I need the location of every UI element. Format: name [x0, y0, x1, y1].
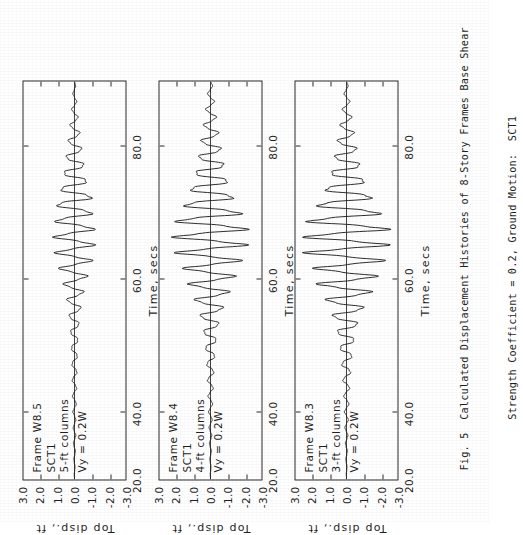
x-tick-top-60 — [23, 278, 28, 279]
caption-line-1: Fig. 5 Calculated Displacement Histories… — [456, 30, 472, 470]
y-axis-label-1: 1.0 — [51, 486, 63, 520]
x-axis-label-20: 20.0 — [402, 468, 414, 493]
x-axis-label-80: 80.0 — [402, 134, 414, 159]
y-axis-label-2: 2.0 — [305, 486, 317, 520]
ground-motion-label-w8-5: SCT1 — [44, 398, 58, 472]
ground-motion-label-w8-3: SCT1 — [316, 398, 330, 472]
ground-motion-label-w8-4: SCT1 — [180, 398, 194, 472]
x-axis-label-20: 20.0 — [130, 468, 142, 493]
x-axis-label-40: 40.0 — [402, 401, 414, 426]
y-axis-label-3: 3.0 — [152, 486, 164, 520]
annotation-block-w8-3: Frame W8.3 SCT1 3-ft columns Vy = 0.2W — [302, 398, 360, 472]
x-axis-label-80: 80.0 — [266, 134, 278, 159]
x-tick-40 — [392, 411, 397, 412]
y-tick-right-neg2 — [382, 81, 383, 86]
y-tick-1 — [330, 474, 331, 479]
y-tick-neg1 — [364, 474, 365, 479]
y-axis-title: Top disp., ft — [287, 522, 407, 535]
x-axis-label-60: 60.0 — [130, 268, 142, 293]
y-tick-2 — [40, 474, 41, 479]
y-tick-right-1 — [58, 81, 59, 86]
x-axis-title: Time, secs — [146, 244, 159, 316]
y-axis-title: Top disp., ft — [15, 522, 135, 535]
y-axis-label-1: 1.0 — [323, 486, 335, 520]
x-axis-label-40: 40.0 — [266, 401, 278, 426]
y-tick-right-2 — [312, 81, 313, 86]
y-tick-right-2 — [176, 81, 177, 86]
y-tick-neg2 — [110, 474, 111, 479]
y-tick-right-neg2 — [246, 81, 247, 86]
chart-panel-w8-4: Frame W8.4 SCT1 4-ft columns Vy = 0.2W 3… — [158, 50, 262, 480]
y-axis-title: Top disp., ft — [151, 522, 271, 535]
x-axis-label-60: 60.0 — [402, 268, 414, 293]
annotation-block-w8-4: Frame W8.4 SCT1 4-ft columns Vy = 0.2W — [166, 398, 224, 472]
columns-label-w8-4: 4-ft columns — [193, 398, 207, 472]
x-axis-label-40: 40.0 — [130, 401, 142, 426]
x-tick-top-40 — [159, 411, 164, 412]
columns-label-w8-5: 5-ft columns — [57, 398, 71, 472]
y-axis-label-neg1: -1.0 — [357, 486, 369, 520]
x-axis-label-20: 20.0 — [266, 468, 278, 493]
yield-label-w8-3: Vy = 0.2W — [347, 398, 361, 472]
frame-label-w8-3: Frame W8.3 — [302, 398, 316, 472]
chart-panel-w8-3: Frame W8.3 SCT1 3-ft columns Vy = 0.2W 3… — [294, 50, 398, 480]
x-tick-top-80 — [159, 145, 164, 146]
y-axis-label-0: 0.0 — [204, 486, 216, 520]
x-tick-top-40 — [23, 411, 28, 412]
y-axis-label-neg2: -2.0 — [375, 486, 387, 520]
annotation-block-w8-5: Frame W8.5 SCT1 5-ft columns Vy = 0.2W — [30, 398, 88, 472]
columns-label-w8-3: 3-ft columns — [329, 398, 343, 472]
x-tick-top-60 — [295, 278, 300, 279]
y-axis-label-2: 2.0 — [169, 486, 181, 520]
y-axis-label-0: 0.0 — [68, 486, 80, 520]
x-tick-60 — [256, 278, 261, 279]
frame-label-w8-4: Frame W8.4 — [166, 398, 180, 472]
y-axis-label-2: 2.0 — [33, 486, 45, 520]
y-tick-neg2 — [246, 474, 247, 479]
yield-label-w8-5: Vy = 0.2W — [75, 398, 89, 472]
y-axis-label-3: 3.0 — [288, 486, 300, 520]
y-tick-right-neg1 — [228, 81, 229, 86]
y-axis-label-0: 0.0 — [340, 486, 352, 520]
x-axis-title: Time, secs — [282, 244, 295, 316]
x-tick-top-40 — [295, 411, 300, 412]
y-tick-1 — [194, 474, 195, 479]
y-axis-label-3: 3.0 — [16, 486, 28, 520]
y-axis-label-1: 1.0 — [187, 486, 199, 520]
y-tick-2 — [312, 474, 313, 479]
y-axis-label-neg1: -1.0 — [221, 486, 233, 520]
y-tick-neg1 — [228, 474, 229, 479]
y-axis-label-neg1: -1.0 — [85, 486, 97, 520]
x-tick-top-80 — [295, 145, 300, 146]
caption-line-2: Strength Coefficient = 0.2, Ground Motio… — [504, 30, 520, 470]
y-tick-right-1 — [330, 81, 331, 86]
y-tick-right-neg2 — [110, 81, 111, 86]
y-tick-right-neg1 — [364, 81, 365, 86]
y-tick-neg2 — [382, 474, 383, 479]
y-axis-label-neg2: -2.0 — [239, 486, 251, 520]
y-tick-2 — [176, 474, 177, 479]
yield-label-w8-4: Vy = 0.2W — [211, 398, 225, 472]
x-tick-60 — [392, 278, 397, 279]
y-tick-right-2 — [40, 81, 41, 86]
y-tick-right-neg1 — [92, 81, 93, 86]
x-tick-80 — [256, 145, 261, 146]
x-axis-label-80: 80.0 — [130, 134, 142, 159]
figure-caption: Fig. 5 Calculated Displacement Histories… — [424, 30, 523, 470]
x-tick-60 — [120, 278, 125, 279]
frame-label-w8-5: Frame W8.5 — [30, 398, 44, 472]
x-tick-80 — [392, 145, 397, 146]
x-tick-40 — [120, 411, 125, 412]
x-tick-40 — [256, 411, 261, 412]
y-tick-right-1 — [194, 81, 195, 86]
x-tick-80 — [120, 145, 125, 146]
x-tick-top-80 — [23, 145, 28, 146]
y-tick-1 — [58, 474, 59, 479]
x-tick-top-60 — [159, 278, 164, 279]
y-tick-neg1 — [92, 474, 93, 479]
y-axis-label-neg2: -2.0 — [103, 486, 115, 520]
chart-panel-w8-5: Frame W8.5 SCT1 5-ft columns Vy = 0.2W 3… — [22, 50, 126, 480]
x-axis-label-60: 60.0 — [266, 268, 278, 293]
